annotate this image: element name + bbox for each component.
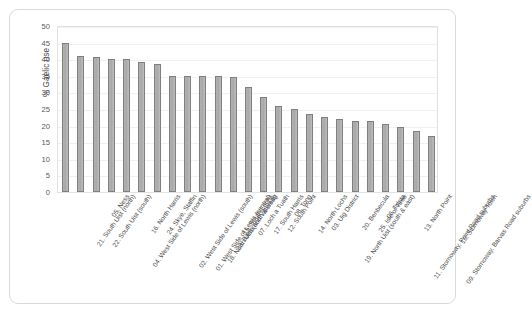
bar[interactable]: [336, 119, 343, 192]
bar[interactable]: [367, 121, 374, 192]
bar[interactable]: [413, 131, 420, 192]
bar[interactable]: [306, 114, 313, 192]
bar[interactable]: [245, 87, 252, 192]
y-axis-tick-label: 50: [42, 22, 50, 31]
y-axis-tick-label: 25: [42, 105, 50, 114]
bar[interactable]: [184, 76, 191, 192]
y-axis-tick-label: 45: [42, 38, 50, 47]
bar[interactable]: [77, 56, 84, 192]
bar[interactable]: [275, 106, 282, 192]
y-axis-tick-label: 30: [42, 88, 50, 97]
bar[interactable]: [93, 57, 100, 192]
y-axis-tick-labels: 50454035302520151050: [26, 26, 54, 193]
y-axis-tick-label: 15: [42, 138, 50, 147]
x-axis-tick-label: 10. Stornoway Town: [459, 193, 498, 245]
bar[interactable]: [169, 76, 176, 192]
bar[interactable]: [138, 62, 145, 192]
chart-card: % Gaelic use 50454035302520151050 21. So…: [9, 9, 456, 304]
bar[interactable]: [123, 59, 130, 192]
bar[interactable]: [428, 136, 435, 192]
bar[interactable]: [397, 127, 404, 192]
y-axis-tick-label: 35: [42, 71, 50, 80]
bar[interactable]: [215, 76, 222, 192]
bar[interactable]: [291, 109, 298, 192]
x-axis-tick-label: 04. West Side of Lewis (north): [151, 193, 206, 268]
x-axis-tick-label: 09. Stornoway, Barvas Road suburbs: [465, 193, 532, 285]
y-axis-tick-label: 20: [42, 121, 50, 130]
bars-container: [57, 26, 438, 192]
bar[interactable]: [382, 124, 389, 192]
bar[interactable]: [108, 59, 115, 192]
bar[interactable]: [154, 64, 161, 192]
bar[interactable]: [321, 117, 328, 192]
y-axis-tick-label: 40: [42, 55, 50, 64]
bar[interactable]: [62, 43, 69, 192]
x-axis-tick-label: 13. North Point: [422, 193, 453, 232]
x-axis-tick-label: 19. North Uist (south & east): [363, 193, 416, 264]
x-axis-tick-labels: 21. South Uist (north)22. South Uist (so…: [10, 193, 457, 303]
bar[interactable]: [260, 97, 267, 192]
bar[interactable]: [230, 77, 237, 192]
bar[interactable]: [352, 121, 359, 192]
y-axis-tick-label: 5: [46, 171, 50, 180]
bar[interactable]: [199, 76, 206, 192]
y-axis-tick-label: 10: [42, 154, 50, 163]
